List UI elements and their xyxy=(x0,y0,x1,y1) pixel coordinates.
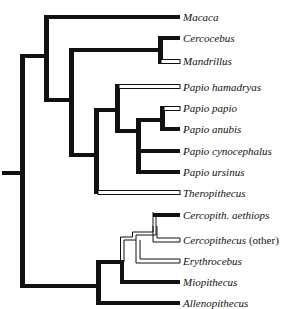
branch-papio-hamadryas xyxy=(119,85,180,89)
branch-miopithecus xyxy=(120,280,180,284)
taxon-label-papio-hamadryas: Papio hamadryas xyxy=(183,81,261,93)
branch-to-baboon-mangabey-clade xyxy=(44,98,72,102)
taxon-label-cercocebus: Cercocebus xyxy=(183,32,235,44)
taxon-label-papio-papio: Papio papio xyxy=(183,102,237,114)
branch-cercocebus xyxy=(158,36,180,40)
baboon-mangabey-vertical xyxy=(69,48,74,157)
branch-erythrocebus xyxy=(136,240,180,263)
taxon-label-papio-ursinus: Papio ursinus xyxy=(183,166,244,178)
taxon-label-macaca: Macaca xyxy=(183,11,218,23)
papio-vertical xyxy=(115,84,120,133)
taxon-label-papio-cynocephalus: Papio cynocephalus xyxy=(183,145,272,157)
papio-southern-vertical xyxy=(136,118,141,174)
branches xyxy=(2,15,180,305)
root-vertical-branch xyxy=(20,54,25,288)
branch-to-cercocebus-mandrillus xyxy=(69,48,161,52)
branch-papio-ursinus xyxy=(136,170,180,174)
taxon-qualifier: (other) xyxy=(249,234,279,246)
taxon-label-cercopithecus-other: Cercopithecus (other) xyxy=(183,234,279,246)
cercopithecini-vertical xyxy=(96,260,101,305)
branch-cercopith-aethiops xyxy=(153,213,180,217)
branch-papio-papio xyxy=(164,107,180,111)
papionini-vertical xyxy=(44,15,49,102)
taxon-label-miopithecus: Miopithecus xyxy=(183,276,237,288)
branch-to-miopithecus-clade xyxy=(96,260,123,264)
branch-papio-cynocephalus xyxy=(136,149,180,153)
branch-to-guenons xyxy=(121,232,133,262)
taxon-label-papio-anubis: Papio anubis xyxy=(183,123,241,135)
branch-allenopithecus xyxy=(96,301,180,305)
branch-to-cercopithecini xyxy=(20,284,100,288)
branch-to-papionini xyxy=(20,54,48,58)
taxon-label-erythrocebus: Erythrocebus xyxy=(183,255,242,267)
branch-to-papio-southern xyxy=(115,129,138,133)
branch-to-papio xyxy=(94,108,118,112)
branch-theropithecus xyxy=(98,191,180,195)
guenon-inner xyxy=(124,235,136,262)
branch-mandrillus xyxy=(161,60,180,64)
branch-papio-anubis xyxy=(160,127,180,131)
guenon-upper-outer xyxy=(133,212,154,232)
branch-to-papio-papio-anubis xyxy=(136,118,162,122)
branch-to-papio-theropithecus xyxy=(69,153,96,157)
branch-cercopithecus-other xyxy=(153,226,180,242)
branch-macaca xyxy=(44,15,180,19)
taxon-label-cercopith-aethiops: Cercopith. aethiops xyxy=(183,209,269,221)
taxon-label-mandrillus: Mandrillus xyxy=(183,55,232,67)
taxon-label-theropithecus: Theropithecus xyxy=(183,187,246,199)
taxon-name: Cercopithecus xyxy=(183,234,246,246)
taxon-label-allenopithecus: Allenopithecus xyxy=(183,297,248,309)
guenon-open-branches xyxy=(121,212,181,263)
papio-theropithecus-vertical xyxy=(94,108,99,194)
